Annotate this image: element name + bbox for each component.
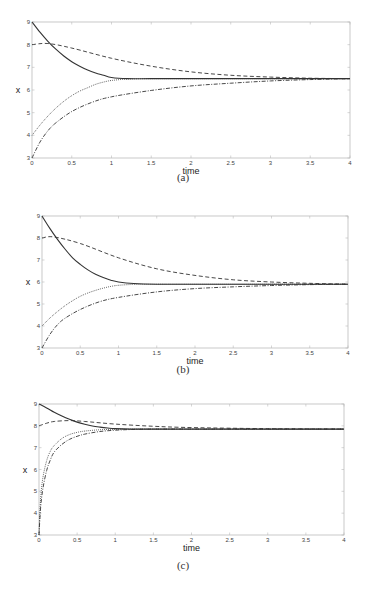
y-tick-label: 6	[27, 87, 31, 93]
series-dash-dot	[39, 429, 344, 535]
caption-b: (b)	[0, 363, 366, 375]
y-tick-label: 5	[34, 488, 38, 494]
series-dashed	[32, 43, 350, 78]
series-dash-dot	[42, 284, 348, 348]
x-axis-label: time	[183, 543, 200, 553]
x-tick-label: 2.5	[227, 160, 236, 166]
x-tick-label: 1.5	[149, 537, 158, 543]
x-tick-label: 3	[270, 350, 274, 356]
x-tick-label: 3.5	[306, 160, 315, 166]
y-tick-label: 9	[34, 401, 38, 407]
x-tick-label: 3.5	[302, 537, 311, 543]
y-tick-label: 4	[27, 132, 31, 138]
y-axis-label: x	[23, 465, 28, 475]
y-tick-label: 8	[34, 423, 38, 429]
y-tick-label: 8	[27, 42, 31, 48]
x-tick-label: 1.5	[153, 350, 162, 356]
x-tick-label: 1	[117, 350, 121, 356]
series-solid	[39, 404, 344, 429]
x-tick-label: 3.5	[306, 350, 315, 356]
y-tick-label: 7	[27, 64, 31, 70]
x-tick-label: 0.5	[68, 160, 77, 166]
x-tick-label: 0.5	[76, 350, 85, 356]
figure-canvas: 00.511.522.533.543456789timex00.511.522.…	[0, 0, 366, 590]
x-tick-label: 4	[346, 350, 350, 356]
x-tick-label: 0	[37, 537, 41, 543]
y-tick-label: 8	[37, 235, 41, 241]
plot-frame	[39, 404, 344, 535]
x-tick-label: 1.5	[147, 160, 156, 166]
x-tick-label: 1	[110, 160, 114, 166]
y-tick-label: 6	[34, 467, 38, 473]
series-dotted	[39, 429, 344, 535]
y-tick-label: 7	[34, 445, 38, 451]
series-dash-dot	[32, 79, 350, 158]
chart-a: 00.511.522.533.543456789timex	[16, 19, 353, 176]
y-tick-label: 7	[37, 257, 41, 263]
y-tick-label: 9	[27, 19, 31, 25]
x-tick-label: 0.5	[73, 537, 82, 543]
x-tick-label: 0	[40, 350, 44, 356]
x-tick-label: 2.5	[229, 350, 238, 356]
series-dotted	[32, 79, 350, 136]
caption-a: (a)	[0, 171, 366, 183]
y-tick-label: 9	[37, 213, 41, 219]
y-tick-label: 4	[37, 323, 41, 329]
x-tick-label: 2.5	[225, 537, 234, 543]
series-solid	[42, 216, 348, 284]
y-tick-label: 4	[34, 510, 38, 516]
chart-b: 00.511.522.533.543456789timex	[26, 213, 351, 366]
x-tick-label: 3	[269, 160, 273, 166]
x-tick-label: 4	[342, 537, 346, 543]
series-dashed	[42, 237, 348, 285]
x-tick-label: 1	[114, 537, 118, 543]
plot-frame	[42, 216, 348, 348]
series-dotted	[42, 284, 348, 326]
y-axis-label: x	[26, 277, 31, 287]
y-tick-label: 5	[27, 110, 31, 116]
x-tick-label: 0	[30, 160, 34, 166]
plot-frame	[32, 22, 350, 158]
y-axis-label: x	[16, 85, 21, 95]
y-tick-label: 6	[37, 279, 41, 285]
x-tick-label: 4	[348, 160, 352, 166]
chart-c: 00.511.522.533.543456789timex	[23, 401, 347, 553]
y-tick-label: 5	[37, 301, 41, 307]
caption-c: (c)	[0, 559, 366, 571]
x-tick-label: 3	[266, 537, 270, 543]
